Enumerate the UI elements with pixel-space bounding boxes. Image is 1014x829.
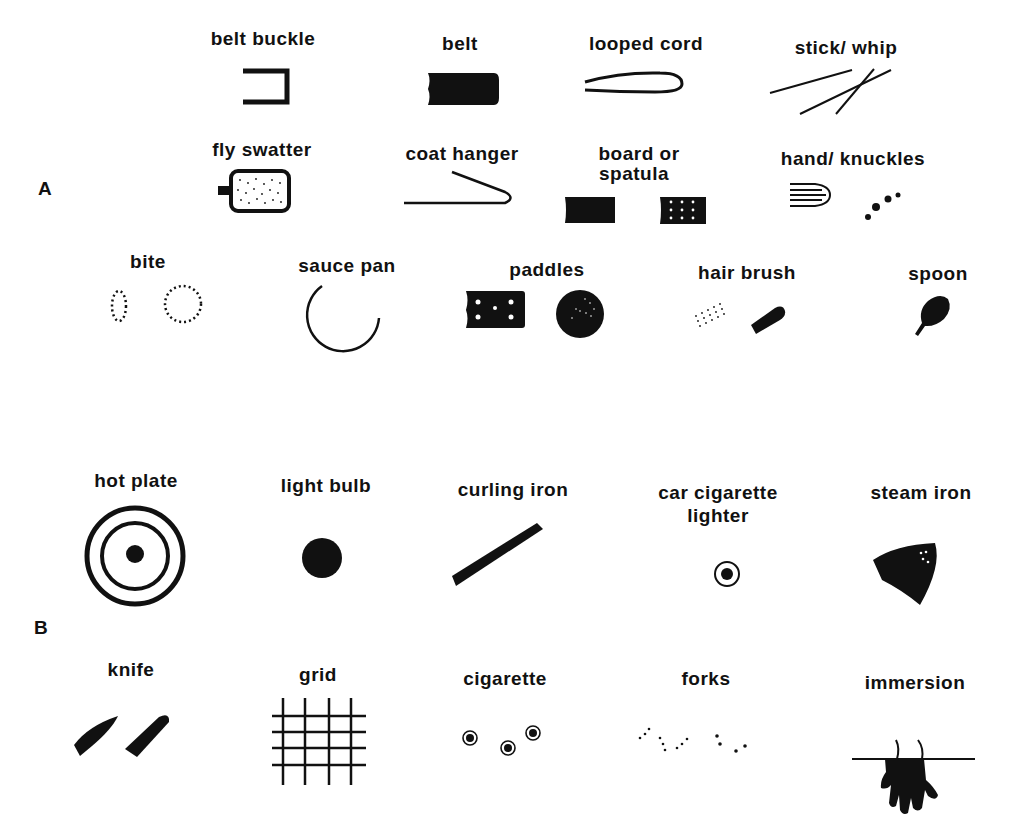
paddle-round-icon [556, 290, 604, 338]
figure-canvas [0, 0, 1014, 829]
forks-icon [639, 728, 747, 753]
board-icon [565, 197, 615, 223]
knife-icon [74, 715, 169, 757]
looped-cord-icon [585, 73, 682, 92]
paddle-rect-icon [466, 291, 525, 328]
knuckles-icon [865, 193, 901, 221]
grid-icon [272, 698, 366, 785]
immersion-icon [852, 740, 975, 814]
belt-icon [428, 73, 499, 105]
cigarette-burns-icon [463, 726, 540, 755]
hair-brush-bristles-icon [695, 303, 725, 327]
curling-iron-icon [452, 523, 543, 586]
hot-plate-icon [87, 508, 183, 604]
steam-iron-icon [873, 543, 937, 605]
spatula-icon [660, 197, 706, 224]
spoon-icon [915, 296, 950, 336]
car-cigarette-lighter-icon [715, 562, 739, 586]
sauce-pan-icon [307, 286, 379, 351]
stick-whip-icon [770, 69, 891, 114]
hand-icon [790, 184, 830, 206]
belt-buckle-icon [243, 71, 287, 102]
coat-hanger-icon [404, 172, 511, 203]
fly-swatter-icon [218, 171, 289, 211]
light-bulb-icon [302, 538, 342, 578]
bite-icon [112, 286, 201, 322]
hair-brush-back-icon [751, 307, 785, 334]
